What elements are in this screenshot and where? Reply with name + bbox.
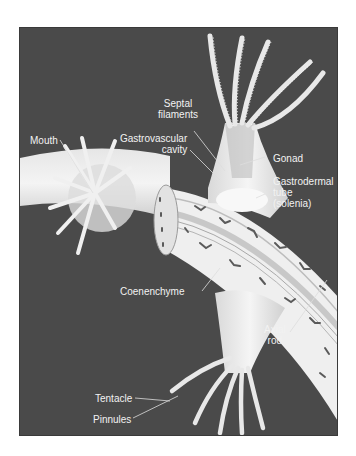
illustration <box>20 28 338 436</box>
label-mouth: Mouth <box>30 135 58 146</box>
label-gastrovascular-cavity: Gastrovascular cavity <box>120 133 187 155</box>
label-axial-rod: Axial rod <box>264 324 286 346</box>
label-septal-filaments: Septal filaments <box>158 98 198 120</box>
label-pinnules: Pinnules <box>93 414 131 425</box>
label-gastrodermal-tube: Gastrodermal tube (solenia) <box>273 176 334 209</box>
label-coenenchyme: Coenenchyme <box>120 286 184 297</box>
label-tentacle: Tentacle <box>95 393 132 404</box>
lower-polyp <box>172 290 285 433</box>
label-gonad: Gonad <box>273 153 303 164</box>
octocoral-anatomy-figure: Septal filaments Mouth Gastrovascular ca… <box>19 27 338 436</box>
